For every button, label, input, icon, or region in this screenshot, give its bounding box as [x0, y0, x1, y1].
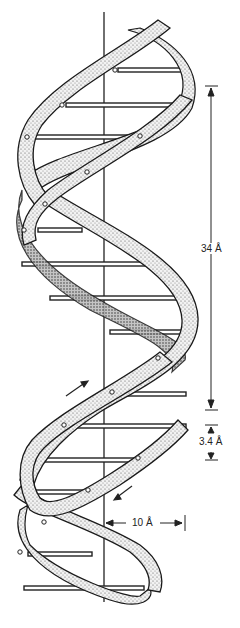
radius-label: 10 Å: [131, 517, 154, 528]
helix-drawing: [0, 0, 240, 628]
pitch-label: 34 Å: [200, 243, 223, 254]
rise-label: 3.4 Å: [198, 436, 223, 447]
dna-double-helix-diagram: 34 Å 3.4 Å 10 Å: [0, 0, 240, 628]
